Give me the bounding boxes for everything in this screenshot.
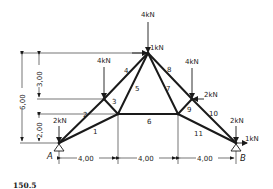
dim-lower-height: 2,00 (36, 122, 44, 138)
member-label-5: 5 (135, 85, 139, 93)
load-labels: 4kN 1kN 4kN 4kN 2kN 2kN 2kN 1kN (53, 11, 259, 143)
member-label-10: 10 (209, 110, 218, 118)
load-label-apex-vertical: 4kN (141, 11, 155, 19)
member-1 (59, 114, 118, 143)
load-label-support-B-horizontal: 1kN (245, 135, 259, 143)
dim-span-1: 4,00 (78, 155, 94, 163)
support-label-A: A (46, 151, 53, 161)
member-label-3: 3 (112, 98, 116, 106)
dim-span-3: 4,00 (197, 155, 213, 163)
roller-support-icon (231, 144, 241, 151)
member-11 (178, 114, 236, 143)
support-B: B (231, 144, 246, 163)
member-label-1: 1 (93, 128, 97, 136)
figure-caption: 150.5 (13, 181, 37, 189)
dim-span-2: 4,00 (138, 155, 154, 163)
dim-total-height: 6,00 (19, 94, 27, 110)
member-label-4: 4 (124, 67, 129, 75)
support-A: A (46, 144, 64, 161)
load-label-support-B: 2kN (230, 117, 244, 125)
member-label-6: 6 (147, 118, 152, 126)
member-label-7: 7 (166, 85, 170, 93)
truss-diagram: 6,00 3,00 2,00 4,00 4,00 4,00 1 2 3 4 5 … (0, 0, 273, 189)
pin-support-icon (54, 144, 64, 151)
load-label-right-upper-horizontal: 2kN (204, 91, 218, 99)
member-label-9: 9 (187, 106, 191, 114)
member-label-2: 2 (83, 111, 87, 119)
load-label-right-upper: 4kN (185, 58, 199, 66)
member-label-11: 11 (194, 130, 203, 138)
load-label-apex-horizontal: 1kN (150, 44, 164, 52)
dim-upper-height: 3,00 (36, 71, 44, 87)
member-7 (148, 53, 178, 114)
load-label-left-upper: 4kN (97, 57, 111, 65)
member-label-8: 8 (167, 66, 171, 74)
member-5 (118, 53, 148, 114)
member-labels: 1 2 3 4 5 6 7 8 9 10 11 (83, 66, 218, 138)
support-label-B: B (240, 153, 246, 163)
load-label-support-A: 2kN (53, 117, 67, 125)
